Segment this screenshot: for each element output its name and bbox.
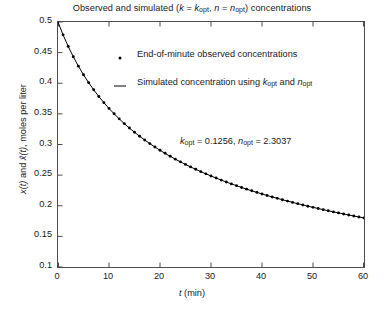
data-point <box>108 107 111 110</box>
data-point <box>235 184 238 187</box>
legend-label-observed: End-of-minute observed concentrations <box>137 49 297 59</box>
ylabel-xhat: x̂ <box>18 156 28 161</box>
parameter-annotation: kopt = 0.1256, nopt = 2.3037 <box>180 136 291 146</box>
data-point <box>261 192 264 195</box>
data-point <box>123 122 126 125</box>
legend-marker-line <box>113 81 131 91</box>
data-point <box>199 170 202 173</box>
data-point <box>296 202 299 205</box>
x-tick-label: 60 <box>343 271 383 281</box>
data-point <box>92 88 95 91</box>
data-point <box>215 177 218 180</box>
data-point <box>301 204 304 207</box>
data-point <box>164 152 167 155</box>
title-pre: Observed and simulated ( <box>73 3 179 13</box>
data-point <box>250 189 253 192</box>
ylabel-x: x <box>18 189 28 194</box>
y-axis-label: x(t) and x̂(t), moles per liter <box>18 54 28 224</box>
annot-ksub: opt <box>185 139 195 146</box>
y-tick-label: 0.1 <box>8 260 52 270</box>
x-tick-label: 40 <box>241 271 281 281</box>
x-tick-label: 30 <box>190 271 230 281</box>
data-point <box>128 127 131 130</box>
data-point <box>327 209 330 212</box>
legend-sim-nsub: opt <box>303 80 313 87</box>
data-point <box>230 182 233 185</box>
data-point <box>118 117 121 120</box>
data-point <box>245 188 248 191</box>
data-point <box>357 216 360 219</box>
observed-points <box>62 33 364 219</box>
annot-nsub: opt <box>243 139 253 146</box>
data-point <box>194 168 197 171</box>
y-axis-ticks <box>58 22 63 267</box>
legend-label-simulated: Simulated concentration using kopt and n… <box>137 77 312 87</box>
data-point <box>255 191 258 194</box>
data-point <box>82 73 85 76</box>
data-point <box>363 216 364 219</box>
legend-sim-ksub: opt <box>267 80 277 87</box>
y-tick-label: 0.15 <box>8 229 52 239</box>
title-eq1: = <box>184 3 195 13</box>
data-point <box>169 155 172 158</box>
annot-keq: = 0.1256, <box>194 136 238 146</box>
data-point <box>266 194 269 197</box>
annot-neq: = 2.3037 <box>253 136 292 146</box>
title-post: ) concentrations <box>245 3 311 13</box>
data-point <box>87 81 90 84</box>
data-point <box>179 160 182 163</box>
data-point <box>281 198 284 201</box>
data-point <box>153 146 156 149</box>
legend-marker-dot <box>115 53 129 63</box>
data-point <box>189 165 192 168</box>
title-kopt-sub: opt <box>199 6 209 13</box>
data-point <box>138 135 141 138</box>
data-point <box>102 101 105 104</box>
data-point <box>291 201 294 204</box>
data-point <box>210 175 213 178</box>
data-point <box>97 95 100 98</box>
data-point <box>72 55 75 58</box>
y-tick-label: 0.25 <box>8 168 52 178</box>
data-point <box>337 211 340 214</box>
x-axis-label: t (min) <box>0 288 384 298</box>
ylabel-t2: (t) <box>18 147 28 156</box>
y-tick-label: 0.2 <box>8 199 52 209</box>
x-tick-label: 20 <box>139 271 179 281</box>
ylabel-t1: (t) <box>18 181 28 190</box>
data-point <box>332 210 335 213</box>
data-point <box>352 215 355 218</box>
y-tick-label: 0.4 <box>8 76 52 86</box>
data-point <box>113 112 116 115</box>
ylabel-and: and <box>18 160 28 180</box>
data-point <box>148 142 151 145</box>
y-tick-label: 0.3 <box>8 138 52 148</box>
data-point <box>159 149 162 152</box>
title-eq2: = <box>219 3 230 13</box>
data-point <box>342 213 345 216</box>
data-point <box>67 45 70 48</box>
y-tick-label: 0.35 <box>8 107 52 117</box>
legend-sim-pre: Simulated concentration using <box>137 77 263 87</box>
data-point <box>77 65 80 68</box>
figure: Observed and simulated (k = kopt, n = no… <box>0 0 384 312</box>
xlabel-unit: (min) <box>182 288 205 298</box>
data-point <box>184 163 187 166</box>
data-point <box>204 172 207 175</box>
data-point <box>322 208 325 211</box>
data-point <box>312 206 315 209</box>
data-point <box>220 179 223 182</box>
data-point <box>271 195 274 198</box>
legend-sim-mid: and <box>277 77 297 87</box>
data-point <box>174 158 177 161</box>
data-point <box>347 214 350 217</box>
data-point <box>276 197 279 200</box>
data-point <box>317 207 320 210</box>
y-tick-label: 0.5 <box>8 15 52 25</box>
data-point <box>286 200 289 203</box>
y-tick-label: 0.45 <box>8 46 52 56</box>
x-tick-label: 10 <box>88 271 128 281</box>
title-nopt-sub: opt <box>235 6 245 13</box>
data-point <box>62 33 65 36</box>
data-point <box>240 186 243 189</box>
